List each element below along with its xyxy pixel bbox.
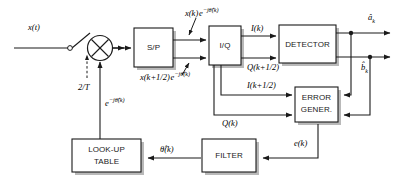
wire-ahat-feedback [344, 33, 351, 95]
block-diagram-figure: S/P I/Q DETECTOR ERROR GENER. FILTER LOO… [0, 0, 404, 182]
signal-label-iq-out-top: I(k) [251, 23, 263, 33]
signal-label-sp-out-bottom: x(k+1/2) e−jθ̂(k) [140, 70, 190, 82]
signal-label-iq-out-q: Q(k) [222, 118, 238, 128]
block-error-generator-label-1: ERROR [302, 93, 332, 102]
block-sp-label: S/P [147, 43, 160, 52]
block-iq-label: I/Q [220, 41, 231, 50]
signal-label-detector-out-b: b̂k [361, 62, 368, 74]
signal-label-iq-out-i-half: I(k+1/2) [247, 80, 276, 90]
block-detector-label: DETECTOR [285, 40, 330, 49]
block-filter-label: FILTER [215, 151, 243, 160]
wire-iq-qk-to-errgen [214, 65, 292, 115]
junction-dot-ahat [349, 31, 353, 35]
block-lookup-table-label-1: LOOK-UP [88, 145, 125, 154]
switch-contact-left [68, 46, 73, 51]
multiplier-node [88, 36, 113, 61]
annot-arrow-sp-top [189, 18, 196, 35]
block-lookup-table-label-2: TABLE [94, 157, 119, 166]
signal-label-sp-out-top: x(k) e−jθ̂(k) [185, 6, 219, 18]
signal-label-phase-est: θ̂(k) [160, 144, 174, 154]
block-error-generator-label-2: GENER. [301, 105, 332, 114]
junction-dot-bhat [368, 55, 372, 59]
signal-label-detector-out-a: âk [368, 12, 375, 24]
signal-label-input: x(t) [28, 22, 40, 32]
block-lookup-table[interactable] [72, 139, 141, 172]
diagram-canvas: S/P I/Q DETECTOR ERROR GENER. FILTER LOO… [0, 0, 404, 182]
signal-label-error: e(k) [294, 138, 307, 148]
signal-label-nco-out: e−jθ̂(k) [105, 96, 125, 108]
wire-errgen-to-filter [263, 124, 318, 158]
signal-label-iq-out-q-half: Q(k+1/2) [247, 62, 279, 72]
junction-dots [349, 31, 372, 59]
signal-label-sample-rate: 2/T [78, 82, 89, 92]
